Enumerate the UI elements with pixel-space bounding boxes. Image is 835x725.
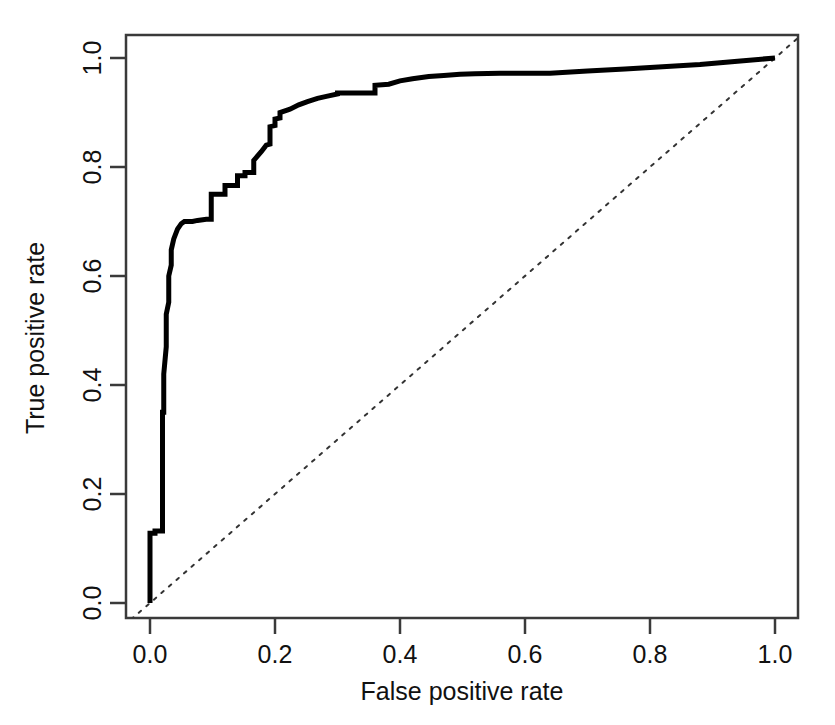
x-tick-label: 0.0 <box>133 640 168 668</box>
x-tick-label: 1.0 <box>758 640 793 668</box>
y-axis-title: True positive rate <box>21 242 49 434</box>
plot-frame-box <box>126 35 798 618</box>
roc-plot-svg: 0.00.20.40.60.81.0 0.00.20.40.60.81.0 Fa… <box>0 0 835 725</box>
x-tick-label: 0.4 <box>383 640 418 668</box>
y-tick-label: 0.6 <box>78 259 106 294</box>
x-tick-label: 0.8 <box>633 640 668 668</box>
x-tick-label: 0.6 <box>508 640 543 668</box>
chance-diagonal-line <box>131 36 800 619</box>
x-tick-label: 0.2 <box>258 640 293 668</box>
x-axis: 0.00.20.40.60.81.0 <box>133 618 793 668</box>
x-axis-title: False positive rate <box>361 677 564 705</box>
y-tick-label: 0.2 <box>78 477 106 512</box>
y-tick-label: 0.0 <box>78 586 106 621</box>
y-axis: 0.00.20.40.60.81.0 <box>78 41 126 621</box>
y-tick-label: 0.4 <box>78 368 106 403</box>
chance-diagonal-group <box>131 36 800 619</box>
roc-curve-figure: 0.00.20.40.60.81.0 0.00.20.40.60.81.0 Fa… <box>0 0 835 725</box>
y-tick-label: 0.8 <box>78 150 106 185</box>
y-tick-label: 1.0 <box>78 41 106 76</box>
